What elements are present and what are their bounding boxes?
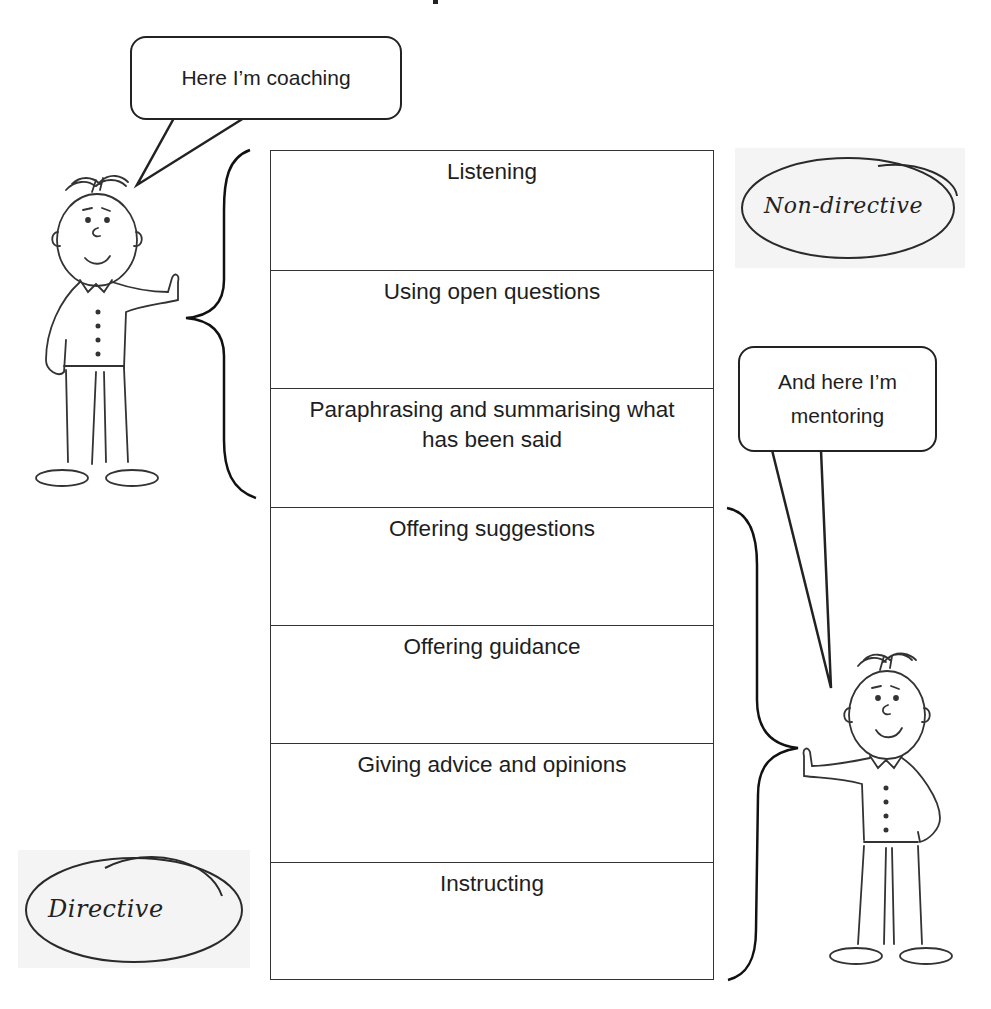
spectrum-row-paraphrasing: Paraphrasing and summarising what has be… bbox=[271, 388, 713, 507]
spectrum-row-label: Paraphrasing and summarising what has be… bbox=[309, 397, 674, 452]
spectrum-row-suggestions: Offering suggestions bbox=[271, 507, 713, 625]
spectrum-row-guidance: Offering guidance bbox=[271, 625, 713, 743]
directive-label: Directive bbox=[48, 895, 164, 923]
spectrum-row-label: Offering guidance bbox=[403, 634, 580, 659]
mentoring-bubble-text-line2: mentoring bbox=[791, 399, 884, 433]
coaching-speech-bubble: Here I’m coaching bbox=[130, 36, 402, 120]
coaching-mentoring-spectrum: Listening Using open questions Paraphras… bbox=[270, 150, 714, 980]
spectrum-row-label: Offering suggestions bbox=[389, 516, 595, 541]
left-brace-icon bbox=[186, 150, 256, 498]
coaching-bubble-text: Here I’m coaching bbox=[181, 61, 350, 95]
left-cartoon-figure-icon bbox=[36, 176, 178, 486]
spectrum-row-open-questions: Using open questions bbox=[271, 270, 713, 388]
spectrum-row-label: Listening bbox=[447, 159, 537, 184]
spectrum-row-instructing: Instructing bbox=[271, 862, 713, 979]
spectrum-row-label: Giving advice and opinions bbox=[358, 752, 627, 777]
title-fragment bbox=[433, 0, 438, 4]
right-cartoon-figure-icon bbox=[804, 654, 952, 964]
spectrum-row-label: Instructing bbox=[440, 871, 544, 896]
mentoring-bubble-tail-icon bbox=[772, 450, 831, 688]
spectrum-row-label: Using open questions bbox=[384, 279, 600, 304]
mentoring-bubble-text-line1: And here I’m bbox=[778, 365, 897, 399]
right-brace-icon bbox=[727, 508, 798, 980]
spectrum-row-listening: Listening bbox=[271, 151, 713, 270]
spectrum-row-advice: Giving advice and opinions bbox=[271, 743, 713, 862]
non-directive-label: Non-directive bbox=[764, 193, 923, 218]
mentoring-speech-bubble: And here I’m mentoring bbox=[738, 346, 937, 452]
